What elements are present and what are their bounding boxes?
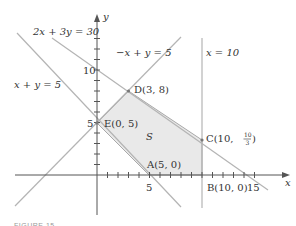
point-label-c: C(10, 10 3 ): [206, 131, 256, 146]
vertex-c: [200, 138, 203, 141]
svg-text:3: 3: [246, 139, 250, 146]
region-label-s: S: [146, 131, 153, 142]
y-axis-label: y: [102, 11, 109, 22]
svg-text:10: 10: [244, 131, 252, 138]
point-label-b: B(10, 0): [207, 182, 248, 193]
y-tick-label-5: 5: [87, 118, 93, 129]
feasible-region-diagram: x y 5 15 5 10 2x + 3y = 30 −x + y = 5 x …: [0, 0, 296, 226]
vertex-d: [127, 89, 130, 92]
x-tick-label-15: 15: [247, 182, 260, 193]
label-neg-x-plus-y-5: −x + y = 5: [116, 47, 172, 58]
x-tick-label-5: 5: [146, 182, 152, 193]
y-tick-label-10: 10: [83, 65, 96, 76]
figure-caption: FIGURE 15: [14, 222, 55, 226]
label-2x-plus-3y-30: 2x + 3y = 30: [32, 26, 100, 37]
point-label-e: E(0, 5): [104, 118, 138, 129]
point-label-a: A(5, 0): [146, 159, 181, 170]
svg-text:): ): [252, 133, 256, 144]
svg-text:C(10,: C(10,: [206, 133, 233, 144]
point-label-d: D(3, 8): [134, 84, 169, 95]
label-x-plus-y-5: x + y = 5: [14, 79, 61, 90]
x-axis-label: x: [285, 177, 291, 188]
y-axis-arrow-icon: [94, 14, 100, 22]
vertex-e: [95, 121, 98, 124]
label-x-10: x = 10: [206, 47, 240, 58]
